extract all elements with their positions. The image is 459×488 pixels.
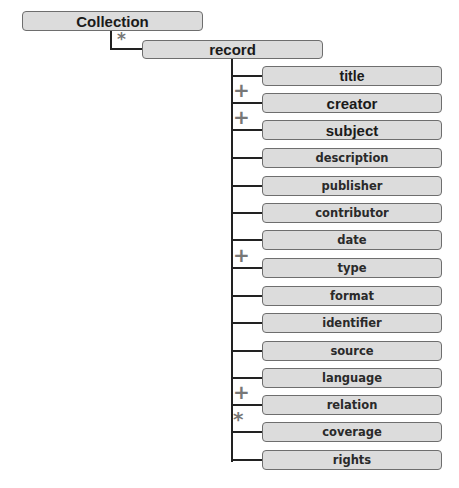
element-node-type: type [262,258,442,278]
record-node: record [142,40,323,59]
branch-line-identifier [231,322,263,324]
element-node-rights: rights [262,450,442,470]
branch-line-language [231,377,263,379]
element-node-contributor: contributor [262,203,442,223]
branch-line-type [231,267,263,269]
element-label: publisher [321,179,382,193]
element-node-date: date [262,230,442,250]
branch-line-source [231,350,263,352]
element-label: identifier [322,316,382,330]
cardinality-plus-icon: + [233,107,250,127]
branch-line-subject [231,129,263,131]
collection-node: Collection [22,11,203,31]
element-label: language [322,371,382,385]
element-node-coverage: coverage [262,422,442,442]
element-node-description: description [262,148,442,168]
branch-line-relation [231,404,263,406]
element-label: relation [327,398,378,412]
element-label: title [340,68,365,84]
element-node-subject: subject [262,120,442,140]
cardinality-plus-icon: + [233,80,250,100]
element-node-language: language [262,368,442,388]
element-node-publisher: publisher [262,176,442,196]
element-label: coverage [322,425,381,439]
element-node-creator: creator [262,93,442,113]
branch-line-title [231,75,263,77]
cardinality-plus-icon: + [233,245,250,265]
element-label: description [315,151,388,165]
cardinality-star-icon: * [233,409,243,429]
branch-line-contributor [231,212,263,214]
element-label: type [337,261,366,275]
branch-line-rights [231,459,263,461]
element-node-source: source [262,341,442,361]
branch-line-coverage [231,431,263,433]
branch-line-format [231,295,263,297]
cardinality-plus-icon: + [233,382,250,402]
element-label: creator [327,95,378,112]
branch-line-date [231,239,263,241]
connector-collection-record-horizontal [110,48,143,50]
record-cardinality-star-icon: * [117,31,126,48]
record-label: record [209,41,256,58]
element-label: date [337,233,366,247]
branch-line-description [231,157,263,159]
element-label: rights [333,453,371,467]
element-label: format [330,289,374,303]
element-node-identifier: identifier [262,313,442,333]
element-label: contributor [315,206,389,220]
collection-label: Collection [76,13,149,30]
element-label: subject [326,122,379,139]
element-node-format: format [262,286,442,306]
branch-line-creator [231,102,263,104]
element-node-relation: relation [262,395,442,415]
element-label: source [330,344,373,358]
element-node-title: title [262,66,442,86]
branch-line-publisher [231,185,263,187]
